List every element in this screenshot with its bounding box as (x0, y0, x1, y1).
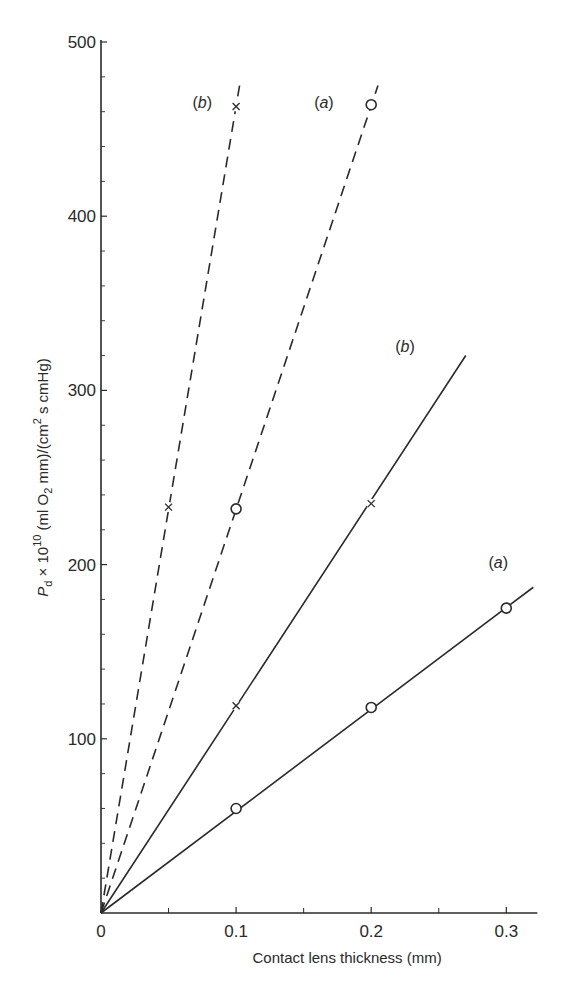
ticks: 00.10.20.3100200300400500 (68, 33, 518, 941)
y-title-rest3: s cmHg) (34, 358, 51, 418)
data-point-circle (366, 100, 376, 110)
series-dashed-a: (a) (101, 86, 378, 913)
y-tick-label: 500 (68, 33, 96, 52)
y-title-mid: × 10 (34, 547, 51, 581)
series-dashed-b: (b) (101, 82, 241, 913)
y-tick-label: 400 (68, 207, 96, 226)
data-point-circle (231, 803, 241, 813)
data-point-circle (231, 504, 241, 514)
series-label: (a) (314, 94, 334, 111)
x-tick-label: 0.3 (494, 922, 518, 941)
data-point-circle (366, 702, 376, 712)
y-title-mid-sup: 10 (31, 535, 43, 547)
y-tick-label: 300 (68, 381, 96, 400)
axes (101, 40, 537, 913)
y-title-prefix: P (34, 587, 51, 597)
y-axis-title: Pd × 1010 (ml O2 mm)/(cm2 s cmHg) (31, 358, 54, 597)
series-line (101, 86, 378, 913)
y-title-rest1: (ml O (34, 494, 51, 535)
series-label: (a) (488, 554, 508, 571)
series-line (101, 587, 533, 913)
x-tick-label: 0.1 (224, 922, 248, 941)
series-solid-a: (a) (101, 554, 533, 913)
x-axis-title: Contact lens thickness (mm) (253, 949, 442, 966)
series-solid-b: (b) (101, 338, 466, 913)
x-tick-label: 0 (96, 922, 105, 941)
series-line (101, 82, 240, 913)
data-point-circle (501, 603, 511, 613)
series-layer: (a)(b)(a)(b) (101, 82, 533, 913)
y-title-rest2: mm)/(cm (34, 424, 51, 487)
series-label: (b) (193, 94, 213, 111)
y-tick-label: 100 (68, 730, 96, 749)
chart: 00.10.20.3100200300400500 (a)(b)(a)(b) C… (0, 0, 569, 991)
series-line (101, 356, 466, 913)
series-label: (b) (395, 338, 415, 355)
x-tick-label: 0.2 (359, 922, 383, 941)
y-tick-label: 200 (68, 556, 96, 575)
